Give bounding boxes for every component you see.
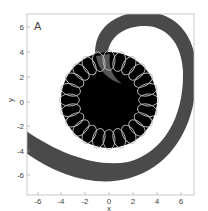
y-axis: 6 4 2 0 -2 -4 -6 y bbox=[6, 23, 30, 180]
y-tick: 4 bbox=[20, 48, 25, 57]
y-tick: 2 bbox=[20, 73, 25, 82]
y-tick: 0 bbox=[20, 98, 25, 107]
x-axis-label: x bbox=[107, 204, 111, 211]
y-tick: -4 bbox=[17, 147, 25, 156]
y-axis-label: y bbox=[6, 98, 15, 102]
plot-area bbox=[22, 12, 196, 181]
panel-label: A bbox=[34, 20, 42, 32]
y-tick: -2 bbox=[17, 122, 25, 131]
y-tick: 6 bbox=[20, 23, 25, 32]
x-tick: 4 bbox=[155, 197, 160, 206]
x-tick: -2 bbox=[81, 197, 89, 206]
x-tick: -6 bbox=[34, 197, 42, 206]
x-tick: 2 bbox=[131, 197, 136, 206]
x-tick: -4 bbox=[57, 197, 65, 206]
x-tick: 6 bbox=[179, 197, 184, 206]
y-tick: -6 bbox=[17, 171, 25, 180]
chart: A 6 4 2 0 -2 -4 -6 y -6 -4 -2 0 2 4 6 x bbox=[0, 0, 208, 211]
